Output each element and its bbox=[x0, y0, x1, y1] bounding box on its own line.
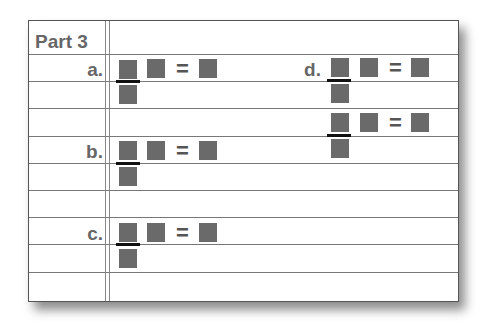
ruled-line bbox=[29, 108, 458, 109]
part-title: Part 3 bbox=[35, 31, 88, 53]
problem-label-d: d. bbox=[291, 59, 321, 81]
denominator-box[interactable] bbox=[119, 249, 137, 268]
ruled-line bbox=[29, 217, 458, 218]
problem-label-b: b. bbox=[73, 141, 103, 163]
equals-sign: = bbox=[389, 58, 402, 78]
numerator-box[interactable] bbox=[331, 58, 349, 77]
operand-box[interactable] bbox=[147, 141, 165, 160]
answer-box[interactable] bbox=[199, 223, 217, 242]
problem-label-c: c. bbox=[73, 223, 103, 245]
fraction-bar bbox=[116, 162, 140, 165]
denominator-box[interactable] bbox=[331, 139, 349, 158]
fraction-bar bbox=[327, 134, 351, 137]
numerator-box[interactable] bbox=[119, 60, 137, 79]
answer-box[interactable] bbox=[411, 58, 429, 77]
answer-box[interactable] bbox=[411, 113, 429, 132]
operand-box[interactable] bbox=[147, 59, 165, 78]
denominator-box[interactable] bbox=[331, 84, 349, 103]
fraction-bar bbox=[327, 79, 351, 82]
equals-sign: = bbox=[389, 113, 402, 133]
fraction-bar bbox=[116, 80, 140, 83]
numerator-box[interactable] bbox=[119, 141, 137, 160]
margin-line bbox=[109, 21, 110, 301]
ruled-line bbox=[29, 81, 458, 82]
operand-box[interactable] bbox=[147, 223, 165, 242]
numerator-box[interactable] bbox=[119, 223, 137, 242]
denominator-box[interactable] bbox=[119, 85, 137, 104]
margin-line bbox=[105, 21, 106, 301]
ruled-line bbox=[29, 136, 458, 137]
answer-box[interactable] bbox=[199, 141, 217, 160]
ruled-line bbox=[29, 190, 458, 191]
denominator-box[interactable] bbox=[119, 167, 137, 186]
operand-box[interactable] bbox=[360, 58, 378, 77]
ruled-line bbox=[29, 163, 458, 164]
equals-sign: = bbox=[176, 223, 189, 243]
answer-box[interactable] bbox=[199, 59, 217, 78]
numerator-box[interactable] bbox=[331, 113, 349, 132]
problem-label-a: a. bbox=[73, 59, 103, 81]
worksheet-card: Part 3 a. = b. = c. = d. = = bbox=[28, 20, 459, 302]
operand-box[interactable] bbox=[360, 113, 378, 132]
fraction-bar bbox=[116, 243, 140, 246]
equals-sign: = bbox=[176, 59, 189, 79]
equals-sign: = bbox=[176, 141, 189, 161]
ruled-line bbox=[29, 272, 458, 273]
